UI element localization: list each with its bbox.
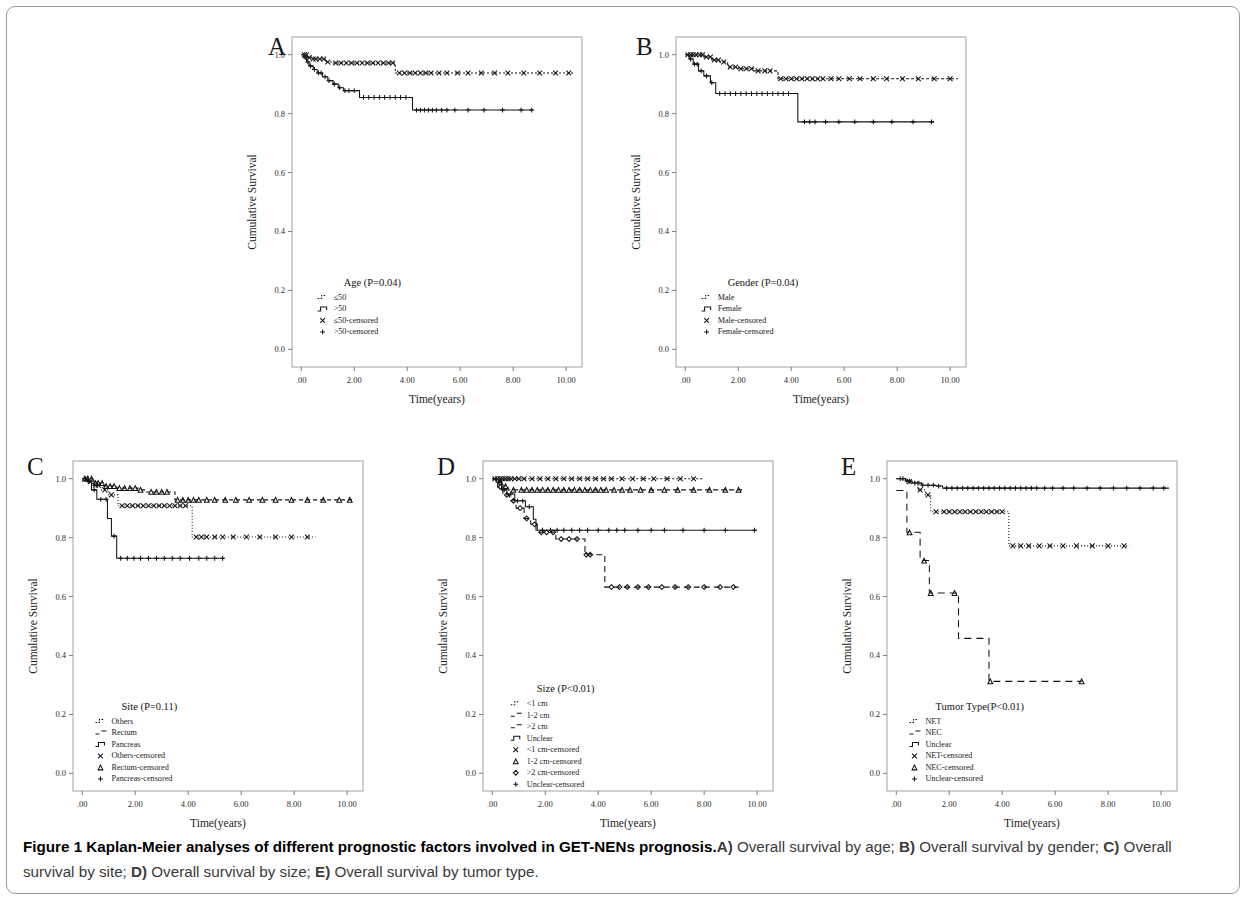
censor-mark bbox=[132, 556, 137, 561]
censor-mark bbox=[760, 91, 765, 96]
censor-mark bbox=[120, 503, 125, 508]
censor-mark bbox=[776, 91, 781, 96]
censor-mark bbox=[98, 497, 103, 502]
censor-mark bbox=[175, 497, 180, 502]
legend-glyph bbox=[98, 754, 103, 759]
legend-entry-label: Pancreas bbox=[111, 740, 140, 749]
censor-mark bbox=[553, 71, 558, 76]
censor-mark bbox=[402, 71, 407, 76]
y-tick-label: 1.0 bbox=[55, 474, 66, 484]
y-tick-label: 0.6 bbox=[658, 168, 669, 178]
y-tick-label: 0.4 bbox=[465, 650, 476, 660]
y-tick-label: 0.4 bbox=[869, 650, 880, 660]
censor-mark bbox=[965, 486, 970, 491]
censor-mark bbox=[146, 503, 151, 508]
legend-title: Size (P<0.01) bbox=[537, 683, 595, 695]
censor-mark bbox=[1002, 486, 1007, 491]
km-curve bbox=[685, 55, 958, 79]
censor-mark bbox=[376, 61, 381, 66]
km-curve bbox=[685, 55, 934, 122]
censor-mark bbox=[577, 528, 582, 533]
censor-mark bbox=[559, 537, 564, 542]
y-tick-label: 0.0 bbox=[55, 768, 66, 778]
legend-glyph bbox=[704, 330, 709, 335]
censor-mark bbox=[233, 497, 238, 502]
censor-mark bbox=[377, 95, 382, 100]
censor-mark bbox=[963, 509, 968, 514]
censor-mark bbox=[398, 95, 403, 100]
legend-glyph bbox=[702, 307, 711, 311]
censor-mark bbox=[981, 486, 986, 491]
censor-mark bbox=[500, 108, 505, 113]
censor-mark bbox=[537, 71, 542, 76]
legend-entry-label: Others-censored bbox=[111, 751, 165, 760]
legend-entry-label: >50-censored bbox=[334, 327, 379, 336]
y-axis-title: Cumulative Survival bbox=[841, 578, 853, 674]
y-tick-label: 1.0 bbox=[658, 50, 669, 60]
x-tick-label: 4.00 bbox=[181, 799, 196, 809]
censor-mark bbox=[1000, 509, 1005, 514]
censor-mark bbox=[466, 71, 471, 76]
censor-mark bbox=[1034, 486, 1039, 491]
y-axis-title: Cumulative Survival bbox=[630, 154, 642, 250]
legend-entry-label: Rectum bbox=[111, 728, 137, 737]
legend-glyph bbox=[320, 318, 325, 323]
censor-mark bbox=[138, 487, 143, 492]
censor-mark bbox=[596, 528, 601, 533]
censor-mark bbox=[518, 506, 523, 511]
figure-caption: Figure 1 Kaplan-Meier analyses of differ… bbox=[23, 835, 1223, 884]
censor-mark bbox=[651, 476, 656, 481]
censor-mark bbox=[614, 528, 619, 533]
censor-mark bbox=[92, 487, 97, 492]
censor-mark bbox=[403, 95, 408, 100]
legend-entry-label: NET bbox=[925, 717, 941, 726]
censor-mark bbox=[556, 487, 561, 492]
y-tick-label: 0.4 bbox=[55, 650, 66, 660]
censor-mark bbox=[929, 119, 934, 124]
y-axis-title: Cumulative Survival bbox=[27, 578, 39, 674]
censor-mark bbox=[247, 497, 252, 502]
legend-glyph bbox=[98, 777, 103, 782]
y-tick-label: 1.0 bbox=[465, 474, 476, 484]
censor-mark bbox=[987, 486, 992, 491]
censor-mark bbox=[609, 585, 614, 590]
censor-mark bbox=[173, 503, 178, 508]
y-tick-label: 0.6 bbox=[55, 592, 66, 602]
censor-mark bbox=[770, 91, 775, 96]
censor-mark bbox=[212, 556, 217, 561]
censor-mark bbox=[1098, 486, 1103, 491]
censor-mark bbox=[718, 585, 723, 590]
censor-mark bbox=[754, 91, 759, 96]
censor-mark bbox=[204, 556, 209, 561]
x-axis-title: Time(years) bbox=[1004, 817, 1060, 830]
censor-mark bbox=[1074, 543, 1079, 548]
km-plot-e: 1.00.80.60.40.20.0.002.004.006.008.0010.… bbox=[835, 439, 1225, 839]
censor-mark bbox=[699, 68, 704, 73]
censor-mark bbox=[781, 91, 786, 96]
censor-mark bbox=[926, 483, 931, 488]
censor-mark bbox=[1037, 543, 1042, 548]
censor-mark bbox=[1124, 486, 1129, 491]
censor-mark bbox=[1029, 486, 1034, 491]
legend-entry-label: >50 bbox=[334, 304, 347, 313]
censor-mark bbox=[347, 88, 352, 93]
censor-mark bbox=[393, 95, 398, 100]
x-tick-label: 4.00 bbox=[400, 375, 415, 385]
legend-glyph bbox=[912, 754, 917, 759]
censor-mark bbox=[1151, 486, 1156, 491]
censor-mark bbox=[786, 91, 791, 96]
panel-label-e: E bbox=[841, 453, 857, 481]
censor-mark bbox=[1061, 543, 1066, 548]
legend-entry-label: Others bbox=[111, 717, 133, 726]
y-tick-label: 0.0 bbox=[869, 768, 880, 778]
x-tick-label: 2.00 bbox=[347, 375, 362, 385]
legend-glyph bbox=[704, 318, 709, 323]
censor-mark bbox=[588, 487, 593, 492]
y-tick-label: 0.2 bbox=[465, 709, 476, 719]
censor-mark bbox=[1111, 486, 1116, 491]
censor-mark bbox=[976, 486, 981, 491]
legend-glyph bbox=[912, 777, 917, 782]
censor-mark bbox=[199, 535, 204, 540]
censor-mark bbox=[434, 108, 439, 113]
censor-mark bbox=[704, 73, 709, 78]
